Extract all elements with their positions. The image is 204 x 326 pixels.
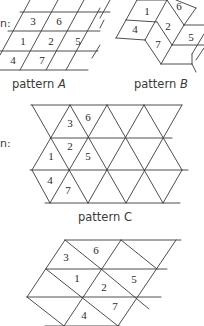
pattern-c-cell-3: 3	[67, 117, 73, 129]
pattern-b-cell-6: 6	[176, 0, 182, 12]
pattern-a-cell-5: 5	[75, 35, 81, 47]
pattern-d-diagram: 3 6 1 2 5 7 4	[27, 240, 181, 326]
tiling-patterns-diagram: 3 6 1 2 5 4 7 n: pattern A	[0, 0, 204, 326]
pattern-b-cell-1: 1	[144, 5, 150, 17]
pattern-a-cell-1: 1	[20, 35, 26, 47]
pattern-b-cell-4: 4	[132, 23, 138, 35]
pattern-b-diagram: 1 6 4 2 5 7 pattern B	[100, 0, 204, 91]
pattern-c-cell-2: 2	[67, 140, 73, 152]
pattern-a-cell-3: 3	[30, 15, 36, 27]
pattern-a-cell-7: 7	[39, 54, 45, 66]
pattern-d-cell-5: 5	[131, 273, 137, 285]
pattern-a-cell-2: 2	[48, 35, 54, 47]
pattern-c-cell-6: 6	[85, 111, 91, 123]
left-edge-text-fragment: n:	[0, 17, 11, 30]
pattern-d-cell-1: 1	[74, 272, 80, 284]
pattern-d-cell-2: 2	[101, 281, 107, 293]
pattern-b-cell-2: 2	[165, 20, 171, 32]
pattern-c-label: pattern C	[78, 210, 132, 224]
pattern-c-cell-5: 5	[85, 150, 91, 162]
pattern-b-label: pattern B	[134, 77, 188, 91]
pattern-b-cell-7: 7	[155, 38, 161, 50]
left-edge-text-fragment: n:	[0, 137, 11, 150]
pattern-b-cell-5: 5	[188, 31, 194, 43]
pattern-d-cell-3: 3	[63, 251, 69, 263]
pattern-c-diagram: 3 6 2 1 5 4 7 n: pattern C	[0, 105, 188, 224]
pattern-d-cell-4: 4	[81, 309, 87, 321]
pattern-a-cell-6: 6	[56, 15, 62, 27]
pattern-c-cell-4: 4	[47, 174, 53, 186]
pattern-a-diagram: 3 6 1 2 5 4 7 n: pattern A	[0, 0, 100, 91]
pattern-a-label: pattern A	[12, 77, 66, 91]
pattern-d-cell-7: 7	[112, 300, 118, 312]
pattern-c-cell-1: 1	[48, 150, 54, 162]
pattern-c-cell-7: 7	[65, 184, 71, 196]
pattern-d-cell-6: 6	[93, 244, 99, 256]
pattern-a-cell-4: 4	[10, 54, 16, 66]
